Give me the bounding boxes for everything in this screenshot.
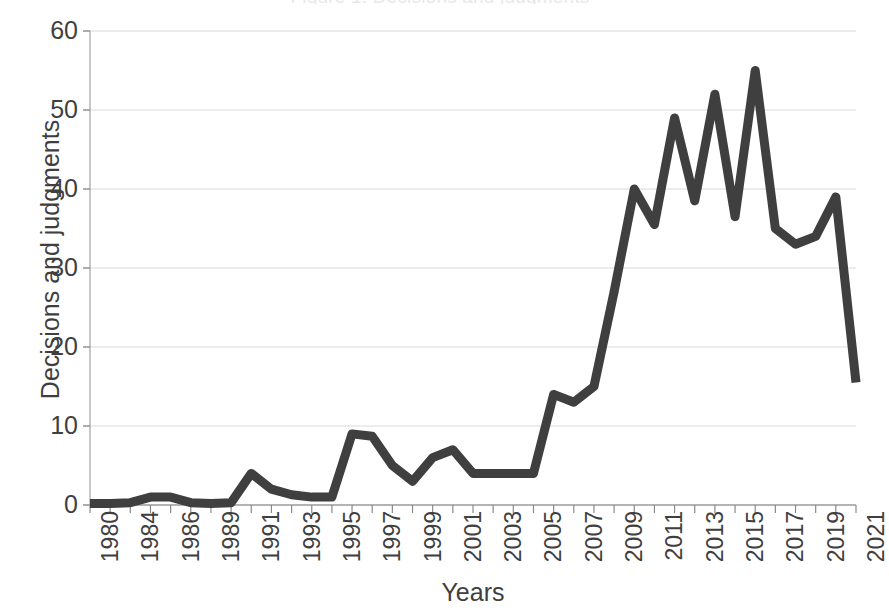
x-axis-tick-label: 1997 <box>381 511 404 583</box>
plot-area <box>90 31 856 505</box>
x-axis-title: Years <box>90 578 856 607</box>
x-axis-tick-label: 2015 <box>744 511 767 583</box>
x-axis-tick-labels: 1980198419861989199119931995199719992001… <box>90 511 856 583</box>
x-axis-tick-label: 2021 <box>865 511 888 583</box>
y-axis-tick-label: 50 <box>16 97 78 122</box>
x-axis-tick-label: 2005 <box>542 511 565 583</box>
y-axis-tick-label: 40 <box>16 176 78 201</box>
gridlines <box>90 31 856 505</box>
x-axis-tick-label: 1995 <box>341 511 364 583</box>
x-axis-tick-label: 1991 <box>260 511 283 583</box>
y-axis-tick-label: 0 <box>16 492 78 517</box>
x-axis-tick-label: 2007 <box>583 511 606 583</box>
x-axis-tick-label: 1980 <box>99 511 122 583</box>
x-axis-tick-label: 1986 <box>180 511 203 583</box>
chart-title-cropped: Figure 1. Decisions and judgments <box>60 0 820 4</box>
data-series-line <box>90 71 856 504</box>
x-axis-tick-label: 2017 <box>784 511 807 583</box>
x-axis-tick-label: 1989 <box>220 511 243 583</box>
y-axis-tick-label: 10 <box>16 413 78 438</box>
x-axis-tick-label: 2003 <box>502 511 525 583</box>
y-axis-tick-labels: 0102030405060 <box>0 0 78 616</box>
x-axis-tick-label: 1993 <box>301 511 324 583</box>
plot-svg <box>90 31 856 505</box>
axis-lines <box>83 31 90 505</box>
x-axis-tick-label: 2009 <box>623 511 646 583</box>
x-axis-tick-label: 1984 <box>139 511 162 583</box>
y-axis-tick-label: 20 <box>16 334 78 359</box>
x-axis-tick-label: 1999 <box>422 511 445 583</box>
x-axis-tick-label: 2019 <box>825 511 848 583</box>
x-axis-tick-label: 2001 <box>462 511 485 583</box>
x-axis-tick-label: 2013 <box>704 511 727 583</box>
y-axis-tick-label: 30 <box>16 255 78 280</box>
y-axis-tick-label: 60 <box>16 18 78 43</box>
x-axis-tick-label: 2011 <box>663 511 686 583</box>
